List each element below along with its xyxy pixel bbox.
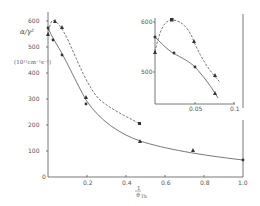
x-tick-0.4: 0.4 bbox=[122, 179, 132, 186]
x-tick-1.0: 1.0 bbox=[238, 179, 248, 186]
inset-chart: 600 500 0.05 0.1 bbox=[141, 14, 243, 112]
main-markers bbox=[46, 19, 244, 161]
x-axis-label: 1 ϑ Th bbox=[135, 185, 147, 199]
main-series-dashed bbox=[48, 20, 140, 124]
svg-text:Th: Th bbox=[141, 194, 147, 199]
y-tick-400: 400 bbox=[28, 69, 40, 76]
svg-text:1: 1 bbox=[137, 185, 141, 191]
inset-series-solid bbox=[155, 37, 218, 98]
y-tick-300: 300 bbox=[28, 95, 40, 102]
inset-y-tick-600: 600 bbox=[141, 18, 153, 25]
svg-text:ϑ: ϑ bbox=[136, 192, 140, 198]
y-tick-600: 600 bbox=[28, 17, 40, 24]
y-tick-200: 200 bbox=[28, 121, 40, 128]
y-axis-label: α/γ² bbox=[20, 28, 34, 36]
chart: 600 500 400 300 200 100 0 0.2 0.4 0.6 0.… bbox=[0, 0, 260, 206]
inset-y-tick-500: 500 bbox=[141, 68, 153, 75]
y-axis-units: (10¹¹cm⁻¹s⁻¹) bbox=[14, 59, 51, 65]
x-tick-0.8: 0.8 bbox=[200, 179, 210, 186]
inset-x-tick-0.05: 0.05 bbox=[189, 105, 203, 112]
y-tick-0: 0 bbox=[42, 173, 46, 180]
inset-x-tick-0.1: 0.1 bbox=[230, 105, 240, 112]
y-tick-100: 100 bbox=[28, 147, 40, 154]
y-tick-500: 500 bbox=[28, 43, 40, 50]
x-tick-0.6: 0.6 bbox=[161, 179, 171, 186]
inset-series-dashed bbox=[155, 20, 220, 82]
x-tick-0.2: 0.2 bbox=[83, 179, 93, 186]
